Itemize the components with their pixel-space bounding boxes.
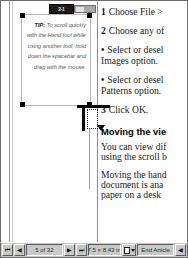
step-number: 2 [101, 25, 106, 36]
last-page-icon: ⏭ [79, 247, 84, 253]
bullet-text: Select or desel [107, 44, 163, 55]
article-previous-button[interactable]: ◀ [175, 244, 186, 256]
page-size-indicator: 7.5 × 8.43 in [88, 244, 121, 256]
bullet-continuation: Patterns option. [101, 86, 188, 96]
previous-page-icon: ◀ [17, 247, 22, 253]
bullet-icon: • [101, 44, 104, 55]
first-page-button[interactable]: ⏮ [2, 244, 13, 256]
paragraph-line: paper on a desk [101, 190, 188, 200]
previous-page-button[interactable]: ◀ [14, 244, 25, 256]
application-window: 2-1 TIP: To scroll quickly with the Hand… [0, 0, 188, 258]
frame-badge-tail [74, 5, 96, 13]
pasteboard-edge-guide [9, 1, 10, 242]
page-master-icon [124, 247, 130, 254]
article-text-block[interactable]: 1Choose File > 2Choose any of •Select or… [101, 7, 188, 200]
master-page-badge-label: 2-1 [58, 6, 64, 12]
tip-body: To scroll quickly with the Hand tool whi… [27, 22, 86, 70]
article-name-field[interactable]: End Article [137, 244, 174, 256]
bullet-icon: • [101, 74, 104, 85]
tip-label: TIP: [35, 22, 46, 28]
list-item: 3Click OK. [101, 105, 188, 115]
list-item: •Select or desel [101, 45, 188, 55]
step-text: Click OK. [109, 104, 148, 115]
master-page-badge[interactable]: 2-1 [49, 4, 74, 14]
flow-cursor-arm-vertical [82, 105, 85, 131]
next-page-button[interactable]: ▶ [64, 244, 75, 256]
step-number: 3 [101, 104, 106, 115]
list-item: 1Choose File > [101, 7, 188, 17]
chevron-down-icon [131, 249, 135, 252]
page-margin-guide-left [12, 1, 13, 242]
bullet-text: Select or desel [107, 74, 163, 85]
selection-handle-top-left[interactable] [20, 13, 25, 18]
first-page-icon: ⏮ [5, 247, 10, 253]
paragraph-line: using the scroll b [101, 152, 188, 162]
tip-callout-text: TIP: To scroll quickly with the Hand too… [25, 20, 86, 72]
page-indicator[interactable]: 5 of 32 [26, 244, 63, 256]
bullet-continuation: Images option. [101, 56, 188, 66]
article-previous-icon: ◀ [178, 247, 183, 253]
last-page-button[interactable]: ⏭ [76, 244, 87, 256]
step-text: Choose File > [109, 6, 163, 17]
document-canvas[interactable]: 2-1 TIP: To scroll quickly with the Hand… [0, 0, 188, 242]
list-item: •Select or desel [101, 75, 188, 85]
selection-handle-top-right[interactable] [87, 13, 92, 18]
column-guide-vertical [89, 129, 90, 189]
page-master-selector-button[interactable] [122, 244, 137, 256]
list-item: 2Choose any of [101, 26, 188, 36]
step-number: 1 [101, 6, 106, 17]
section-heading: Moving the vie [101, 127, 188, 137]
step-text: Choose any of [109, 25, 164, 36]
next-page-icon: ▶ [67, 247, 72, 253]
status-bar: ⏮ ◀ 5 of 32 ▶ ⏭ 7.5 × 8.43 in End Articl… [0, 242, 188, 258]
selection-handle-bottom-left[interactable] [20, 102, 25, 107]
tip-callout-frame[interactable]: TIP: To scroll quickly with the Hand too… [21, 14, 91, 106]
